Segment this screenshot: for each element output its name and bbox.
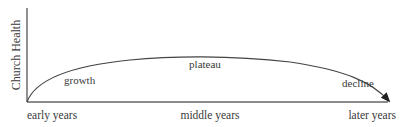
phase-label-plateau: plateau bbox=[189, 58, 221, 70]
y-axis-label: Church Health bbox=[9, 20, 23, 90]
church-lifecycle-diagram: Church Health growth plateau decline ear… bbox=[0, 0, 406, 127]
x-label-later-years: later years bbox=[348, 109, 396, 122]
x-label-middle-years: middle years bbox=[180, 109, 240, 122]
x-label-early-years: early years bbox=[27, 109, 78, 122]
phase-label-decline: decline bbox=[342, 77, 374, 89]
phase-label-growth: growth bbox=[64, 74, 96, 86]
